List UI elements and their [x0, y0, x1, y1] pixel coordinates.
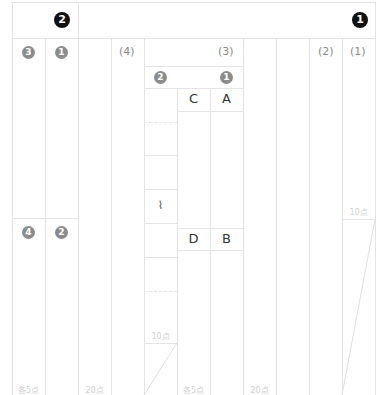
part-1-label: (1) — [350, 45, 366, 58]
section-1-badge: 1 — [352, 12, 368, 28]
tilde-mark: ⌇ — [144, 199, 177, 212]
sub-1-badge: 1 — [220, 71, 233, 84]
question-2-badge: 2 — [55, 226, 68, 239]
letter-b: B — [210, 231, 243, 246]
letter-c: C — [177, 91, 210, 106]
question-3-badge: 3 — [22, 46, 35, 59]
letter-d: D — [177, 231, 210, 246]
part-3-label: (3) — [218, 45, 234, 58]
points-label: 10点 — [342, 206, 375, 217]
question-1-badge: 1 — [55, 46, 68, 59]
question-4-badge: 4 — [22, 226, 35, 239]
part-2-label: (2) — [318, 45, 334, 58]
letter-a: A — [210, 91, 243, 106]
diagonal-strike-lines — [0, 0, 384, 395]
answer-sheet-grid: 2 1 3 1 4 2 (4) (3) (2) (1) 2 1 C A D B … — [0, 0, 384, 395]
part-4-label: (4) — [119, 45, 135, 58]
points-label: 10点 — [144, 330, 177, 341]
section-2-badge: 2 — [54, 12, 70, 28]
points-label: 20点 — [78, 384, 111, 395]
points-label: 20点 — [243, 384, 276, 395]
sub-2-badge: 2 — [154, 71, 167, 84]
points-label: 各5点 — [177, 384, 210, 395]
points-label: 各5点 — [12, 384, 45, 395]
